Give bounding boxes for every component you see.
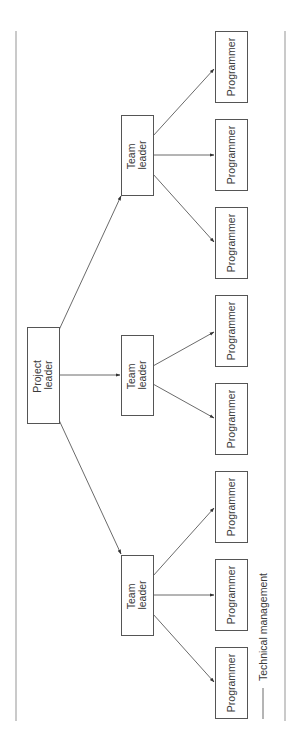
legend-label: Technical management xyxy=(257,573,269,681)
team-leader-2-line2: leader xyxy=(136,360,148,390)
node-team-leader-2: Team leader xyxy=(122,336,154,416)
node-programmer-1: Programmer xyxy=(216,32,248,103)
programmer-4-label: Programmer xyxy=(225,301,237,360)
node-programmer-8: Programmer xyxy=(216,648,248,719)
svg-text:Team leader: Team leader xyxy=(125,360,148,390)
programmer-7-label: Programmer xyxy=(225,565,237,624)
legend: Technical management xyxy=(257,573,269,719)
edge-team2-to-prog5 xyxy=(153,384,214,418)
edge-team3-to-prog6 xyxy=(153,508,214,576)
project-leader-line2: leader xyxy=(42,360,54,390)
team-leader-3-line2: leader xyxy=(136,580,148,610)
programmer-3-label: Programmer xyxy=(225,213,237,272)
node-programmer-2: Programmer xyxy=(216,120,248,191)
node-programmer-6: Programmer xyxy=(216,472,248,543)
team-leader-1-line2: leader xyxy=(136,140,148,170)
edge-team1-to-prog1 xyxy=(153,69,214,136)
node-team-leader-1: Team leader xyxy=(122,116,154,196)
edge-project-to-team3 xyxy=(59,420,121,554)
node-programmer-5: Programmer xyxy=(216,384,248,455)
programmer-5-label: Programmer xyxy=(225,389,237,448)
programmer-6-label: Programmer xyxy=(225,477,237,536)
node-programmer-4: Programmer xyxy=(216,296,248,367)
edge-team1-to-prog3 xyxy=(153,174,214,242)
edge-team3-to-prog8 xyxy=(153,614,214,682)
programmer-2-label: Programmer xyxy=(225,125,237,184)
svg-text:Team leader: Team leader xyxy=(125,580,148,610)
svg-text:Team leader: Team leader xyxy=(125,140,148,170)
node-programmer-7: Programmer xyxy=(216,560,248,631)
edge-team2-to-prog4 xyxy=(153,332,214,366)
programmer-8-label: Programmer xyxy=(225,653,237,712)
org-chart-diagram: Project leader Team leader Team leader T… xyxy=(0,0,287,751)
programmer-1-label: Programmer xyxy=(225,37,237,96)
svg-text:Project leader: Project leader xyxy=(31,357,54,393)
node-programmer-3: Programmer xyxy=(216,208,248,279)
edge-project-to-team1 xyxy=(59,196,121,330)
node-project-leader: Project leader xyxy=(28,328,60,424)
node-team-leader-3: Team leader xyxy=(122,556,154,636)
